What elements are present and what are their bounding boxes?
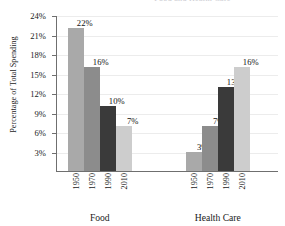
y-axis-tick: 9% — [52, 114, 56, 115]
gridline — [57, 16, 278, 17]
x-axis-year-label: 1950 — [190, 173, 199, 189]
y-axis-tick-label: 18% — [30, 50, 46, 60]
x-axis-year-label: 1990 — [222, 173, 231, 189]
y-axis-tick-label: 24% — [30, 11, 46, 21]
bar-value-label: 22% — [77, 18, 93, 28]
bar-value-label: 16% — [243, 57, 259, 67]
x-axis-line — [56, 171, 278, 172]
bar[interactable] — [186, 152, 202, 172]
y-axis-tick: 15% — [52, 75, 56, 76]
y-axis-tick: 21% — [52, 36, 56, 37]
bar[interactable] — [100, 106, 116, 171]
bar-value-label: 7% — [127, 116, 138, 126]
bar[interactable] — [218, 87, 234, 172]
y-axis-tick: 24% — [52, 16, 56, 17]
x-axis-year-label: 1970 — [88, 173, 97, 189]
bar[interactable] — [68, 28, 84, 171]
bar[interactable] — [234, 67, 250, 171]
bar[interactable] — [116, 126, 132, 172]
plot-area: 3%6%9%12%15%18%21%24% 22%16%10%7%3%7%13%… — [56, 16, 278, 172]
x-axis-year-label: 1970 — [206, 173, 215, 189]
x-axis-group-label: Food — [90, 212, 110, 223]
bar[interactable] — [84, 67, 100, 171]
gridline — [57, 55, 278, 56]
y-axis-tick-label: 6% — [35, 128, 46, 138]
y-axis-tick-label: 12% — [30, 89, 46, 99]
x-axis-year-label: 1990 — [104, 173, 113, 189]
gridline — [57, 36, 278, 37]
x-axis-year-label: 1950 — [72, 173, 81, 189]
y-axis-tick: 3% — [52, 153, 56, 154]
y-axis-tick-label: 3% — [35, 148, 46, 158]
chart-title: Food and Health Care — [100, 0, 285, 2]
y-axis-tick: 12% — [52, 94, 56, 95]
x-axis-year-label: 2010 — [120, 173, 129, 189]
y-axis-tick: 18% — [52, 55, 56, 56]
y-axis-tick-label: 21% — [30, 31, 46, 41]
y-axis-tick-label: 9% — [35, 109, 46, 119]
bar-value-label: 16% — [93, 57, 109, 67]
bar[interactable] — [202, 126, 218, 172]
y-axis-tick-label: 15% — [30, 70, 46, 80]
bar-chart: Food and Health Care Percentage of Total… — [0, 0, 285, 226]
y-axis-tick: 6% — [52, 133, 56, 134]
x-axis-year-label: 2010 — [238, 173, 247, 189]
bar-value-label: 10% — [109, 96, 125, 106]
x-axis-group-label: Health Care — [195, 212, 241, 223]
y-axis-title: Percentage of Total Spending — [9, 10, 18, 160]
